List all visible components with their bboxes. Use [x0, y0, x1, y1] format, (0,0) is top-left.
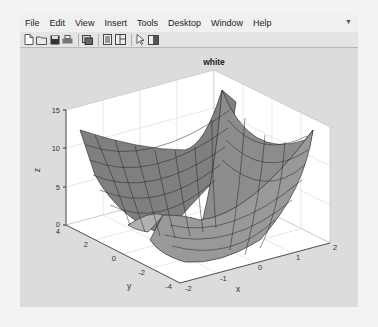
dock-arrow-icon[interactable]: ▼ [345, 18, 352, 25]
z-axis: 15 10 5 0 [52, 106, 66, 229]
menu-window[interactable]: Window [206, 18, 248, 28]
z-tick-15: 15 [52, 106, 60, 115]
menu-insert[interactable]: Insert [99, 18, 132, 28]
y-tick-0: 0 [112, 254, 116, 263]
toolbar [20, 32, 358, 48]
x-tick-0: 0 [258, 263, 262, 272]
menubar: File Edit View Insert Tools Desktop Wind… [20, 14, 358, 32]
z-axis-label: z [32, 168, 42, 172]
z-tick-10: 10 [52, 144, 60, 153]
plot-title: white [202, 57, 225, 67]
dock-figure-icon[interactable] [148, 34, 159, 45]
figure-window: File Edit View Insert Tools Desktop Wind… [20, 14, 358, 307]
menu-help[interactable]: Help [248, 18, 277, 28]
show-plot-tools-icon[interactable] [115, 34, 126, 45]
menu-file[interactable]: File [20, 18, 45, 28]
link-plot-icon[interactable] [82, 34, 93, 45]
new-figure-icon[interactable] [23, 34, 34, 45]
save-icon[interactable] [49, 34, 60, 45]
z-tick-5: 5 [56, 183, 60, 192]
y-tick-2: 2 [84, 240, 88, 249]
x-tick-neg2: -2 [185, 284, 192, 293]
toolbar-separator [78, 34, 79, 46]
edit-plot-icon[interactable] [135, 34, 146, 45]
toolbar-separator [98, 34, 99, 46]
y-tick-neg2: -2 [138, 268, 145, 277]
menu-view[interactable]: View [70, 18, 99, 28]
menu-edit[interactable]: Edit [45, 18, 71, 28]
toolbar-separator [131, 34, 132, 46]
y-axis-label: y [127, 281, 132, 291]
x-tick-1: 1 [296, 253, 300, 262]
y-tick-4: 4 [56, 227, 60, 236]
x-axis-label: x [236, 284, 241, 294]
plot-canvas[interactable]: white [20, 49, 358, 307]
print-icon[interactable] [62, 34, 73, 45]
y-tick-neg4: -4 [165, 282, 172, 291]
menu-tools[interactable]: Tools [132, 18, 163, 28]
x-tick-neg1: -1 [220, 274, 227, 283]
hide-plot-tools-icon[interactable] [102, 34, 113, 45]
menu-desktop[interactable]: Desktop [163, 18, 206, 28]
open-file-icon[interactable] [36, 34, 47, 45]
x-tick-2: 2 [333, 243, 337, 252]
